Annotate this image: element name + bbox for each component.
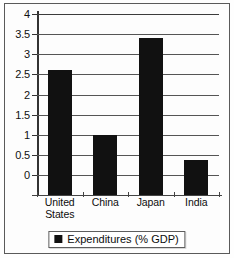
bar-slot-japan xyxy=(128,14,174,195)
y-axis-label-0-5: 0.5 xyxy=(15,149,30,160)
y-axis-label-2-5: 2.5 xyxy=(15,69,30,80)
legend-swatch-icon xyxy=(54,235,62,243)
x-label-line-1: Japan xyxy=(128,197,174,209)
bar-slot-united-states xyxy=(37,14,83,195)
y-axis-label-4: 4 xyxy=(24,9,30,20)
legend-label: Expenditures (% GDP) xyxy=(67,233,178,245)
y-axis-label-2: 2 xyxy=(24,89,30,100)
bar-series-expenditures xyxy=(37,14,219,195)
x-axis-labels: United States China Japan India xyxy=(37,197,219,220)
x-tick-4 xyxy=(219,192,220,197)
x-label-line-1: India xyxy=(174,197,220,209)
bar-chart-figure: 00.511.522.533.54 United States xyxy=(0,0,234,258)
bar-japan[interactable] xyxy=(139,38,163,195)
y-axis-label-3-5: 3.5 xyxy=(15,29,30,40)
x-label-japan: Japan xyxy=(128,197,174,220)
x-label-line-2: States xyxy=(37,209,83,221)
x-label-china: China xyxy=(83,197,129,220)
chart-legend[interactable]: Expenditures (% GDP) xyxy=(48,231,185,248)
bar-slot-india xyxy=(174,14,220,195)
y-axis-label-0: 0 xyxy=(24,170,30,181)
bar-united-states[interactable] xyxy=(48,70,72,195)
bar-slot-china xyxy=(83,14,129,195)
bar-india[interactable] xyxy=(184,160,208,195)
plot-wrapper: 00.511.522.533.54 United States xyxy=(0,0,234,258)
x-label-united-states: United States xyxy=(37,197,83,220)
y-axis-label-3: 3 xyxy=(24,49,30,60)
x-label-line-1: United xyxy=(37,197,83,209)
bar-china[interactable] xyxy=(93,135,117,195)
x-label-line-1: China xyxy=(83,197,129,209)
y-axis-label-1-5: 1.5 xyxy=(15,109,30,120)
y-axis-label-1: 1 xyxy=(24,129,30,140)
x-label-india: India xyxy=(174,197,220,220)
